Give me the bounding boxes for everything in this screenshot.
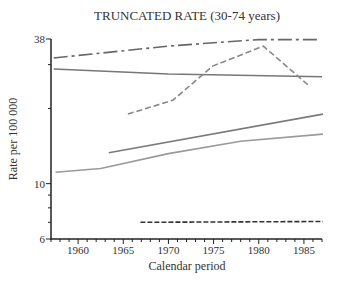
x-axis-label: Calendar period	[149, 259, 226, 273]
y-tick-label: 38	[34, 33, 46, 45]
series-line-2	[54, 69, 322, 77]
series-line-5	[56, 134, 323, 172]
chart-title: TRUNCATED RATE (30-74 years)	[94, 8, 280, 23]
x-tick-label: 1980	[248, 244, 271, 256]
line-chart: TRUNCATED RATE (30-74 years) Rate per 10…	[0, 0, 344, 292]
series-line-1	[54, 40, 320, 58]
chart-container: TRUNCATED RATE (30-74 years) Rate per 10…	[0, 0, 344, 292]
x-tick-label: 1965	[112, 244, 135, 256]
y-tick-label: 10	[34, 178, 46, 190]
plot-lines	[54, 40, 323, 223]
x-tick-label: 1985	[293, 244, 316, 256]
y-axis-label: Rate per 100 000	[6, 98, 20, 180]
x-tick-label: 1960	[67, 244, 90, 256]
series-line-6	[140, 222, 323, 223]
series-line-4	[109, 114, 323, 153]
x-tick-label: 1970	[157, 244, 180, 256]
series-line-3	[128, 46, 310, 114]
x-tick-label: 1975	[203, 244, 226, 256]
y-tick-label: 6	[40, 233, 46, 245]
